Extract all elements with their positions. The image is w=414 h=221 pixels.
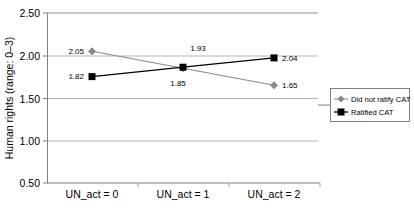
y-tick-label-1-50: 1.50 [20, 93, 41, 105]
legend-label-ratified: Ratified CAT [351, 108, 394, 117]
y-tick-label-2-00: 2.00 [20, 50, 41, 62]
legend-label-did-not-ratify: Did not ratify CAT [351, 95, 411, 104]
square-marker-icon [338, 109, 345, 116]
series-marker-ratified-1 [180, 64, 187, 71]
y-tick-label-2-50: 2.50 [20, 7, 41, 19]
data-label-ratified-0: 1.82 [68, 72, 84, 81]
series-marker-ratified-0 [89, 73, 96, 80]
data-label-did-not-ratify-0: 2.05 [68, 47, 84, 56]
data-label-ratified-1: 1.93 [190, 44, 206, 53]
y-tick-label-0-50: 0.50 [20, 177, 41, 189]
chart-legend[interactable]: Did not ratify CAT Ratified CAT [318, 89, 411, 122]
series-marker-ratified-2 [271, 54, 278, 61]
legend-item-ratified-cat[interactable]: Ratified CAT [334, 108, 394, 117]
data-label-did-not-ratify-1: 1.85 [170, 79, 186, 88]
y-tick-label-1-00: 1.00 [20, 135, 41, 147]
data-label-ratified-2: 2.04 [282, 54, 298, 63]
chart-container: 2.50 2.00 1.50 1.00 0.50 Human rights (r… [0, 0, 414, 221]
x-axis-category-labels: UN_act = 0 UN_act = 1 UN_act = 2 [66, 188, 301, 200]
data-label-did-not-ratify-2: 1.65 [282, 81, 298, 90]
line-chart: 2.50 2.00 1.50 1.00 0.50 Human rights (r… [0, 0, 414, 221]
x-category-label-2: UN_act = 2 [248, 188, 301, 200]
x-category-label-0: UN_act = 0 [66, 188, 119, 200]
y-axis-title: Human rights (range: 0–3) [3, 37, 15, 160]
y-axis-ticks [43, 13, 47, 183]
y-axis-tick-labels: 2.50 2.00 1.50 1.00 0.50 [20, 7, 41, 189]
x-category-label-1: UN_act = 1 [157, 188, 210, 200]
x-axis-ticks [138, 183, 320, 187]
